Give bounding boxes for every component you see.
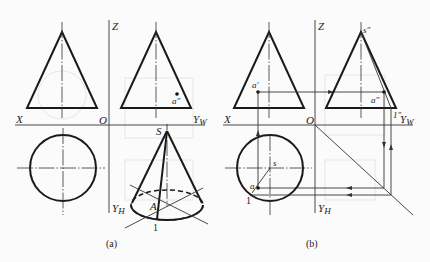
yh-axis-label: YH [112, 202, 125, 216]
axonometric-cone: S A 1 [125, 125, 208, 233]
z-axis-label: Z [318, 20, 325, 32]
side-view-cone: a″ [121, 22, 191, 130]
yw-axis-label: YW [193, 113, 208, 127]
origin-label: O [99, 114, 107, 126]
x-axis-label: X [15, 113, 24, 125]
front-view-cone [27, 22, 97, 118]
point-a-side-label: a″ [371, 95, 380, 105]
45-degree-line [315, 125, 413, 215]
origin-label: O [306, 114, 314, 126]
side-view-cone: s″ a″ 1″ [326, 22, 402, 195]
x-axis-label: X [223, 113, 232, 125]
point-1-top-label: 1 [246, 195, 251, 206]
background-ghost-shapes [38, 71, 385, 200]
front-view-cone: a′ [234, 22, 384, 188]
apex-s-side-label: s″ [363, 25, 371, 35]
yh-axis-label: YH [318, 202, 331, 216]
cone-projection-figure: X Z O YW YH a″ [0, 0, 430, 262]
apex-s-label: S [156, 125, 162, 137]
point-a-side-label: a″ [172, 96, 181, 106]
apex-s-top-label: s [273, 158, 277, 168]
point-a-front-label: a′ [252, 80, 260, 90]
caption-a: (a) [106, 238, 117, 250]
point-A-label: A [149, 200, 157, 212]
point-a-top [256, 186, 260, 190]
top-view-circle: s a 1 [225, 135, 312, 215]
caption-b: (b) [306, 238, 318, 250]
panel-b: X Z O YW YH a′ s″ a″ 1″ [223, 20, 415, 250]
point-1-label: 1 [153, 222, 158, 233]
panel-a: X Z O YW YH a″ [15, 20, 208, 250]
yw-axis-label: YW [400, 113, 415, 127]
z-axis-label: Z [112, 20, 119, 32]
top-view-circle [17, 128, 105, 215]
point-1-side-label: 1″ [393, 110, 402, 120]
point-a-top-label: a [250, 181, 255, 191]
